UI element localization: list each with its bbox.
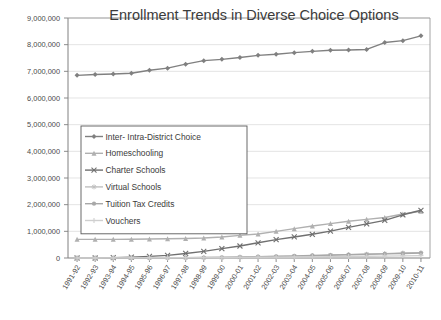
data-point-marker — [92, 184, 97, 189]
y-axis-tick-label: 3,000,000 — [27, 174, 60, 183]
y-axis-tick-label: 7,000,000 — [27, 67, 60, 76]
chart-container: 9,000,0008,000,0007,000,0006,000,0005,00… — [0, 0, 441, 320]
y-axis-tick-label: 1,000,000 — [27, 227, 60, 236]
legend-label: Homeschooling — [106, 148, 164, 158]
legend-label: Tuition Tax Credits — [106, 199, 175, 209]
enrollment-trends-line-chart: 9,000,0008,000,0007,000,0006,000,0005,00… — [0, 0, 441, 320]
legend-label: Charter Schools — [106, 165, 166, 175]
y-axis-tick-label: 0 — [56, 254, 60, 263]
data-point-marker — [92, 202, 96, 206]
legend-label: Virtual Schools — [106, 182, 162, 192]
legend-label: Inter- Intra-District Choice — [106, 132, 202, 142]
chart-title: Enrollment Trends in Diverse Choice Opti… — [109, 7, 398, 23]
y-axis-tick-label: 8,000,000 — [27, 40, 60, 49]
y-axis-tick-label: 5,000,000 — [27, 120, 60, 129]
y-axis-tick-label: 9,000,000 — [27, 14, 60, 23]
y-axis-tick-label: 6,000,000 — [27, 94, 60, 103]
y-axis-tick-label: 2,000,000 — [27, 200, 60, 209]
legend-label: Vouchers — [106, 216, 141, 226]
chart-legend: Inter- Intra-District ChoiceHomeschoolin… — [81, 126, 247, 234]
y-axis-tick-label: 4,000,000 — [27, 147, 60, 156]
